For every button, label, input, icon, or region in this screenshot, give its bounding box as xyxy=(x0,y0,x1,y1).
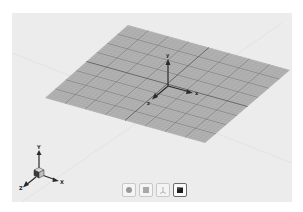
view-toolbar xyxy=(122,183,187,199)
scene-canvas[interactable]: y x z Y X Z xyxy=(12,13,292,202)
x-label: X xyxy=(60,179,64,185)
square-view-icon xyxy=(142,186,150,194)
z-label: Z xyxy=(19,185,23,191)
x-arrow-head-icon xyxy=(53,178,60,183)
z-arrow-head-icon xyxy=(23,181,29,188)
transform-view-button[interactable] xyxy=(156,183,170,197)
y-label: Y xyxy=(36,144,41,150)
view-cube-icon[interactable] xyxy=(34,168,44,179)
sphere-view-icon xyxy=(125,186,133,194)
y-arrow-head-icon xyxy=(37,150,42,155)
3d-viewport[interactable]: y x z Y X Z xyxy=(12,13,292,202)
z-label: z xyxy=(147,100,150,106)
cube-view-button[interactable] xyxy=(173,183,187,197)
square-view-button[interactable] xyxy=(139,183,153,197)
sphere-view-button[interactable] xyxy=(122,183,136,197)
orientation-gizmo[interactable]: Y X Z xyxy=(19,144,64,191)
transform-view-icon xyxy=(159,186,167,194)
cube-view-icon xyxy=(176,186,184,194)
